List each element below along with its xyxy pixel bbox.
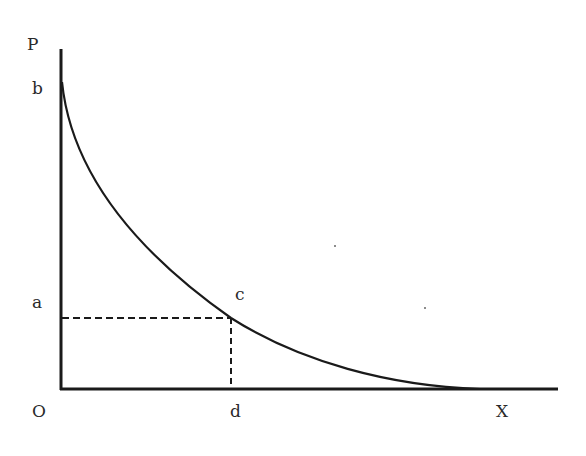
diagram-canvas: P b a c O d X (0, 0, 586, 456)
point-label-b: b (32, 80, 43, 97)
x-axis-label: X (496, 403, 508, 420)
point-label-c: c (235, 286, 245, 303)
figure-caption-cropped (265, 446, 480, 456)
demand-curve (62, 82, 480, 389)
y-axis-label: P (27, 36, 38, 53)
origin-label: O (32, 403, 46, 420)
speck (334, 245, 336, 247)
speck (424, 307, 426, 309)
point-label-a: a (32, 294, 42, 311)
diagram-svg (0, 0, 586, 456)
point-label-d: d (230, 403, 241, 420)
